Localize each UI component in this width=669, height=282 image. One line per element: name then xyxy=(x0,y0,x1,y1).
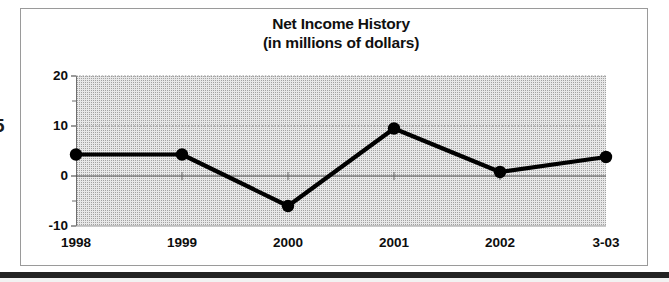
page-bottom-rule-soft xyxy=(0,278,669,282)
y-axis-label-20: 20 xyxy=(24,69,68,83)
data-point-1998 xyxy=(70,148,82,160)
data-point-3-03 xyxy=(600,151,612,163)
chart-plot-wrapper: 20100-10 199819992000200120023-03 xyxy=(0,0,669,282)
y-axis-label-0: 0 xyxy=(24,169,68,183)
data-point-2001 xyxy=(388,122,400,134)
x-axis-label-2001: 2001 xyxy=(349,235,439,251)
data-point-2000 xyxy=(282,200,294,212)
x-axis-label-2002: 2002 xyxy=(455,235,545,251)
x-axis-label-1998: 1998 xyxy=(31,235,121,251)
y-axis-label--10: -10 xyxy=(24,219,68,233)
x-axis-label-2000: 2000 xyxy=(243,235,333,251)
x-axis-label-1999: 1999 xyxy=(137,235,227,251)
gridlines-group xyxy=(71,76,606,226)
data-point-1999 xyxy=(176,148,188,160)
data-point-2002 xyxy=(494,166,506,178)
series-line-group xyxy=(76,129,606,207)
y-axis-label-10: 10 xyxy=(24,119,68,133)
x-axis-label-3-03: 3-03 xyxy=(561,235,651,251)
series-line xyxy=(76,129,606,207)
figure-page: 5 Net Income History (in millions of dol… xyxy=(0,0,669,282)
